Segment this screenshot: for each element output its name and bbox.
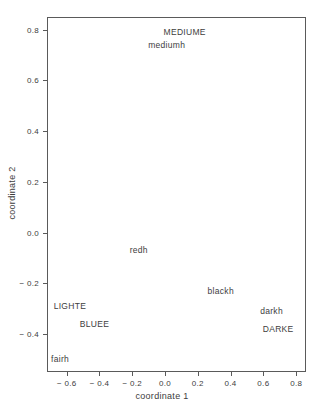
data-points-layer: MEDIUMEmediumhredhblackhLIGHTEdarkhBLUEE…: [47, 17, 306, 372]
x-tick-label: 0.0: [159, 379, 171, 388]
y-axis-title: coordinate 2: [7, 148, 17, 238]
x-tick-mark: [99, 372, 100, 376]
data-point-label: MEDIUME: [164, 28, 206, 37]
y-tick-label: − 0.4: [3, 329, 39, 338]
x-tick-label: − 0.6: [57, 379, 77, 388]
data-point-label: blackh: [208, 287, 234, 296]
y-tick-mark: [43, 80, 47, 81]
y-tick-mark: [43, 283, 47, 284]
y-tick-mark: [43, 131, 47, 132]
x-tick-label: 0.4: [225, 379, 237, 388]
x-tick-mark: [67, 372, 68, 376]
y-tick-mark: [43, 233, 47, 234]
data-point-label: fairh: [51, 355, 69, 364]
y-tick-mark: [43, 30, 47, 31]
x-tick-label: − 0.2: [122, 379, 142, 388]
x-tick-mark: [198, 372, 199, 376]
data-point-label: BLUEE: [80, 320, 109, 329]
x-tick-mark: [231, 372, 232, 376]
data-point-label: darkh: [260, 307, 283, 316]
data-point-label: DARKE: [263, 325, 294, 334]
x-tick-mark: [263, 372, 264, 376]
x-tick-label: 0.8: [290, 379, 302, 388]
x-tick-label: − 0.4: [90, 379, 110, 388]
x-tick-mark: [296, 372, 297, 376]
data-point-label: mediumh: [148, 41, 185, 50]
y-tick-label: 0.8: [3, 25, 39, 34]
data-point-label: redh: [130, 246, 148, 255]
scatter-plot-figure: MEDIUMEmediumhredhblackhLIGHTEdarkhBLUEE…: [0, 0, 324, 410]
y-tick-label: 0.6: [3, 76, 39, 85]
y-tick-mark: [43, 182, 47, 183]
x-tick-mark: [165, 372, 166, 376]
data-point-label: LIGHTE: [54, 302, 87, 311]
x-tick-label: 0.6: [257, 379, 269, 388]
x-tick-label: 0.2: [192, 379, 204, 388]
y-tick-mark: [43, 334, 47, 335]
x-axis-title: coordinate 1: [0, 391, 324, 401]
y-tick-label: 0.4: [3, 127, 39, 136]
y-tick-label: − 0.2: [3, 279, 39, 288]
x-tick-mark: [132, 372, 133, 376]
